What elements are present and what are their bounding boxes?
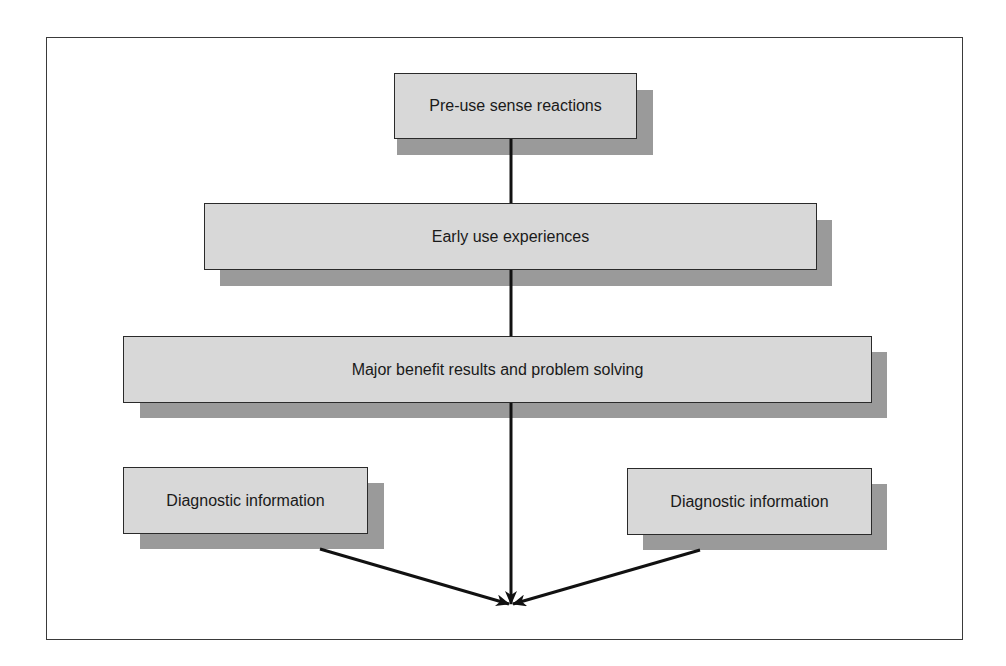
node-label: Diagnostic information [670, 493, 828, 511]
node-diagnostic-left: Diagnostic information [123, 467, 368, 534]
node-label: Major benefit results and problem solvin… [352, 361, 644, 379]
edge-diag-right-arrow [513, 550, 700, 604]
node-diagnostic-right: Diagnostic information [627, 468, 872, 535]
node-early-use: Early use experiences [204, 203, 817, 270]
node-pre-use: Pre-use sense reactions [394, 73, 637, 139]
node-label: Diagnostic information [166, 492, 324, 510]
node-label: Pre-use sense reactions [429, 97, 602, 115]
node-major-benefit: Major benefit results and problem solvin… [123, 336, 872, 403]
edge-diag-left-arrow [320, 549, 509, 604]
node-label: Early use experiences [432, 228, 589, 246]
